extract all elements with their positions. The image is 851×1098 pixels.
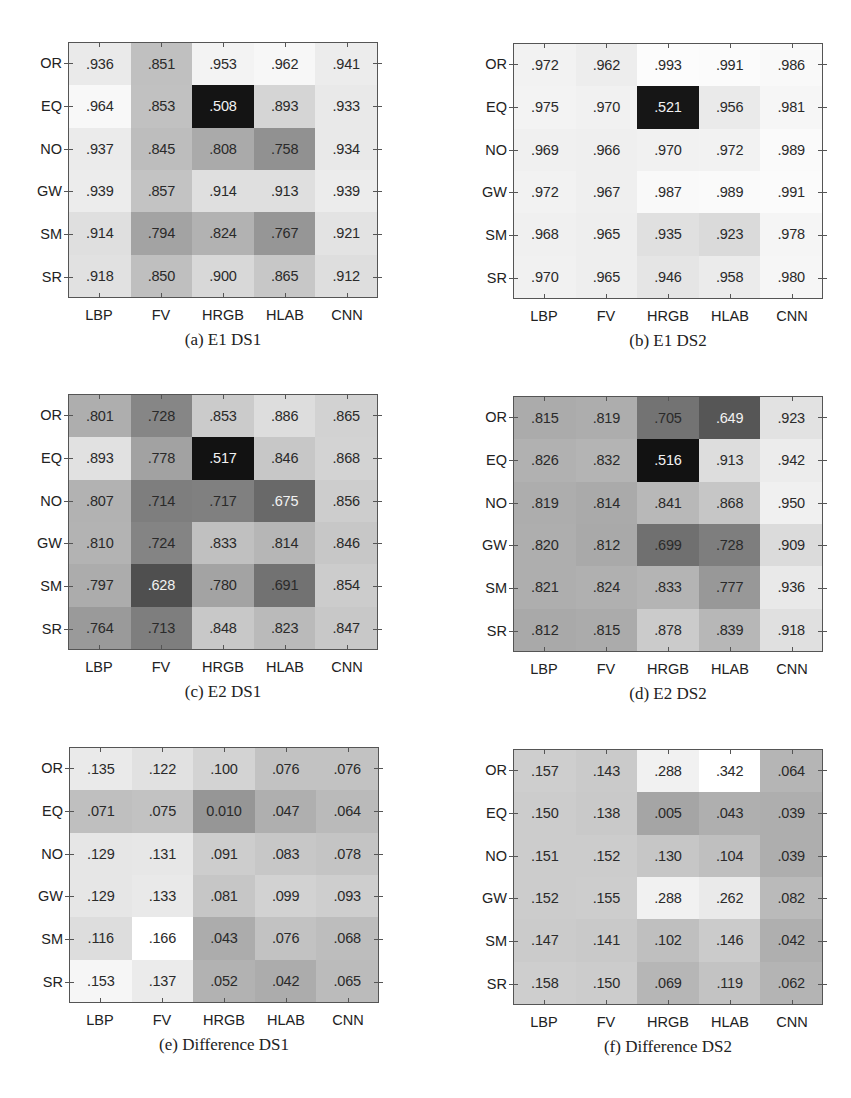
- x-axis-label: LBP: [513, 1014, 575, 1030]
- panel-caption: (a) E1 DS1: [68, 330, 378, 350]
- x-tick: [347, 645, 348, 649]
- heatmap-cell: .797: [69, 564, 131, 606]
- y-tick: [509, 150, 518, 151]
- y-axis-label: SM: [467, 580, 507, 596]
- heatmap-cell: .130: [637, 835, 699, 877]
- heatmap-cell: .717: [192, 480, 254, 522]
- y-tick: [373, 234, 382, 235]
- x-tick: [285, 645, 286, 649]
- heatmap-cell: .846: [254, 437, 316, 479]
- panel-caption: (b) E1 DS2: [513, 331, 823, 351]
- heatmap-cell: .972: [699, 129, 761, 171]
- panel-caption: (c) E2 DS1: [68, 682, 378, 702]
- heatmap-cell: .675: [254, 480, 316, 522]
- y-tick: [818, 813, 827, 814]
- x-tick: [348, 998, 349, 1002]
- y-tick: [65, 811, 74, 812]
- x-axis-label: LBP: [68, 659, 130, 675]
- heatmap-cell: .777: [699, 566, 761, 608]
- heatmap-cell: .508: [192, 85, 254, 127]
- x-axis-label: LBP: [513, 661, 575, 677]
- x-tick: [792, 647, 793, 651]
- heatmap-cell: .962: [576, 44, 638, 86]
- heatmap-cell: .517: [192, 437, 254, 479]
- y-axis-label: EQ: [467, 805, 507, 821]
- heatmap-cell: .969: [514, 129, 576, 171]
- y-tick: [509, 545, 518, 546]
- y-axis-label: GW: [467, 184, 507, 200]
- heatmap-cell: .068: [316, 917, 378, 959]
- heatmap-grid: .972.962.993.991.986.975.970.521.956.981…: [513, 43, 823, 299]
- y-axis-label: SM: [467, 933, 507, 949]
- x-tick: [223, 293, 224, 297]
- y-tick: [509, 813, 518, 814]
- heatmap-cell: .288: [637, 877, 699, 919]
- y-tick: [374, 939, 383, 940]
- x-axis-label: CNN: [761, 1014, 823, 1030]
- x-tick: [348, 748, 349, 752]
- x-axis-label: CNN: [316, 659, 378, 675]
- heatmap-cell: .893: [254, 85, 316, 127]
- heatmap-cell: .942: [760, 439, 822, 481]
- heatmap-cell: .801: [69, 395, 131, 437]
- y-axis-label: EQ: [23, 803, 63, 819]
- heatmap-cell: .826: [514, 439, 576, 481]
- y-tick: [64, 234, 73, 235]
- heatmap-cell: .131: [132, 833, 194, 875]
- panel-caption: (f) Difference DS2: [513, 1037, 823, 1057]
- y-tick: [509, 984, 518, 985]
- y-tick: [509, 588, 518, 589]
- heatmap-cell: .042: [760, 919, 822, 961]
- heatmap-cell: .965: [576, 256, 638, 298]
- y-axis-label: SR: [467, 623, 507, 639]
- x-axis-label: HLAB: [255, 1012, 317, 1028]
- heatmap-cell: .968: [514, 213, 576, 255]
- heatmap-cell: .989: [760, 129, 822, 171]
- x-tick: [285, 43, 286, 47]
- x-tick: [285, 395, 286, 399]
- y-tick: [64, 415, 73, 416]
- heatmap-cell: .848: [192, 607, 254, 649]
- heatmap-cell: .815: [576, 609, 638, 651]
- heatmap-cell: .918: [69, 255, 131, 297]
- x-tick: [99, 293, 100, 297]
- y-axis-label: OR: [22, 55, 62, 71]
- x-tick: [606, 294, 607, 298]
- y-tick: [373, 586, 382, 587]
- x-axis-label: HLAB: [699, 661, 761, 677]
- y-tick: [373, 149, 382, 150]
- heatmap-cell: .767: [254, 212, 316, 254]
- heatmap-cell: .847: [315, 607, 377, 649]
- heatmap-cell: .857: [131, 170, 193, 212]
- y-tick: [64, 106, 73, 107]
- heatmap-cell: .868: [315, 437, 377, 479]
- heatmap-cell: .147: [514, 919, 576, 961]
- heatmap-cell: .980: [760, 256, 822, 298]
- heatmap-cell: .939: [315, 170, 377, 212]
- heatmap-cell: .062: [760, 962, 822, 1004]
- heatmap-cell: .841: [637, 482, 699, 524]
- x-axis-label: HLAB: [699, 308, 761, 324]
- heatmap-cell: .856: [315, 480, 377, 522]
- heatmap-cell: .937: [69, 128, 131, 170]
- heatmap-cell: .934: [315, 128, 377, 170]
- y-tick: [509, 631, 518, 632]
- heatmap-cell: .064: [760, 750, 822, 792]
- heatmap-panel: .936.851.953.962.941.964.853.508.893.933…: [0, 0, 851, 1098]
- x-tick: [286, 748, 287, 752]
- heatmap-panel: .801.728.853.886.865.893.778.517.846.868…: [0, 0, 851, 1098]
- y-tick: [65, 939, 74, 940]
- heatmap-cell: .122: [132, 748, 194, 790]
- y-axis-label: GW: [467, 890, 507, 906]
- heatmap-cell: .868: [699, 482, 761, 524]
- heatmap-cell: .824: [192, 212, 254, 254]
- x-axis-label: FV: [130, 307, 192, 323]
- x-axis-label: HRGB: [637, 661, 699, 677]
- heatmap-cell: .853: [192, 395, 254, 437]
- x-tick: [730, 44, 731, 48]
- heatmap-cell: .839: [699, 609, 761, 651]
- y-tick: [373, 277, 382, 278]
- x-tick: [730, 1000, 731, 1004]
- x-tick: [100, 998, 101, 1002]
- heatmap-cell: .970: [576, 86, 638, 128]
